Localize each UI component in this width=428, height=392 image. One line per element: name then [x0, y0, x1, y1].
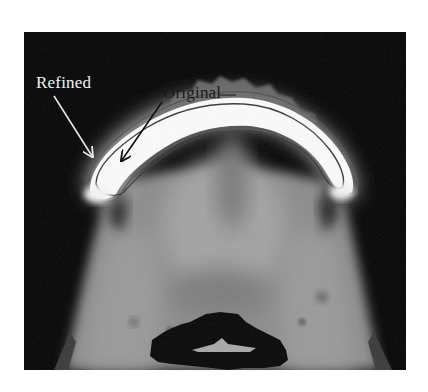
ct-figure: Refined Original: [0, 0, 428, 392]
original-label: Original: [163, 84, 221, 101]
refined-label: Refined: [36, 74, 91, 91]
